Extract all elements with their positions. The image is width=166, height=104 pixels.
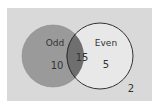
venn-diagram: Odd 10 15 Even 5 2: [0, 0, 166, 104]
even-only-count: 5: [103, 59, 109, 70]
even-set-label: Even: [95, 38, 117, 48]
intersection-count: 15: [76, 52, 89, 63]
odd-set-label: Odd: [46, 38, 65, 48]
outside-count: 2: [128, 83, 134, 94]
odd-only-count: 10: [51, 60, 64, 71]
